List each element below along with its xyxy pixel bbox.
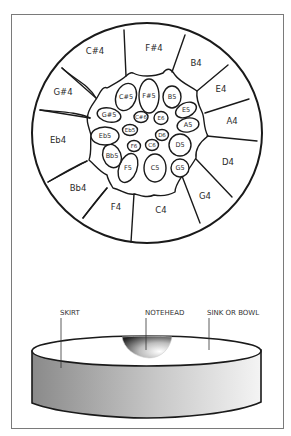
note-label: B4 <box>190 58 201 68</box>
note-label: D6 <box>158 132 166 138</box>
note-label: C5 <box>151 164 160 172</box>
note-label: D4 <box>222 157 234 167</box>
note-G5: G5 <box>171 159 189 177</box>
note-E6: E6 <box>154 112 168 125</box>
note-label: A4 <box>226 116 237 126</box>
note-label: F#4 <box>145 43 162 53</box>
note-label: C4 <box>155 205 166 215</box>
drum-outline <box>32 23 262 243</box>
note-B5: B5 <box>163 86 181 108</box>
skirt-label: SKIRT <box>60 309 80 317</box>
note-label: F6 <box>131 143 138 149</box>
note-C5: C5 <box>144 154 166 182</box>
note-label: Eb5 <box>99 132 111 140</box>
note-label: C6 <box>148 142 156 148</box>
side-view: SKIRT NOTEHEAD SINK OR BOWL <box>32 309 261 418</box>
note-label: F#5 <box>142 92 155 100</box>
top-view: C#4 F#4 B4 E4 A4 D4 G4 C4 F4 Bb4 Eb4 G#4… <box>32 23 262 243</box>
note-D5: D5 <box>169 134 191 156</box>
note-label: G#5 <box>102 111 117 119</box>
notehead-label: NOTEHEAD <box>145 309 184 317</box>
note-label: C#5 <box>119 93 133 101</box>
sink-label: SINK OR BOWL <box>207 309 259 317</box>
note-Eb5-mid: Eb5 <box>91 127 119 145</box>
note-label: G#4 <box>53 87 72 97</box>
note-label: G4 <box>199 191 211 201</box>
note-label: E4 <box>216 84 227 94</box>
note-label: D5 <box>175 141 184 149</box>
note-label: Bb5 <box>106 152 119 160</box>
note-label: E6 <box>158 115 165 121</box>
note-label: A5 <box>184 121 193 129</box>
note-label: G5 <box>175 164 184 172</box>
note-label: Eb4 <box>50 135 66 145</box>
note-label: Eb5 <box>125 127 136 133</box>
note-label: E5 <box>182 106 190 114</box>
note-D6: D6 <box>156 130 169 141</box>
note-F6: F6 <box>128 141 141 152</box>
note-label: C#6 <box>135 114 147 120</box>
note-F#5: F#5 <box>139 79 159 113</box>
steelpan-diagram: C#4 F#4 B4 E4 A4 D4 G4 C4 F4 Bb4 Eb4 G#4… <box>0 0 291 436</box>
note-Eb-inner: Eb5 <box>123 125 138 136</box>
note-label: F4 <box>111 202 121 212</box>
note-label: B5 <box>168 93 177 101</box>
note-C#6: C#6 <box>134 112 148 123</box>
note-label: F5 <box>124 164 132 172</box>
note-C6: C6 <box>146 140 159 151</box>
note-label: C#4 <box>86 46 104 56</box>
note-label: Bb4 <box>70 183 87 193</box>
